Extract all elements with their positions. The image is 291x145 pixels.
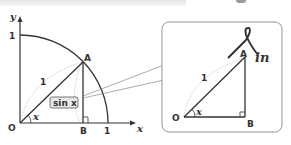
y-axis-label: y <box>9 11 17 22</box>
point-a-label: A <box>84 53 91 63</box>
segment-oa <box>20 62 83 123</box>
point-b-label: B <box>80 126 87 136</box>
diagram-stage: sin x y x 1 1 O A B 1 x in <box>0 0 291 145</box>
callout-hypotenuse-label: 1 <box>201 73 207 83</box>
callout-figure: in A B O 1 x <box>162 22 282 132</box>
callout-connector-top <box>83 65 164 96</box>
callout-box <box>162 22 282 132</box>
callout-origin-label: O <box>172 113 180 123</box>
dotted-arc-2 <box>74 62 82 123</box>
angle-arc <box>28 115 31 123</box>
sin-box-label: sin x <box>53 98 77 108</box>
left-figure: sin x y x 1 1 O A B 1 x <box>8 11 144 136</box>
callout-point-b-label: B <box>247 119 254 129</box>
angle-label: x <box>32 111 40 122</box>
y-axis-arrow <box>18 16 23 22</box>
script-label: in <box>255 50 269 65</box>
callout-angle-label: x <box>195 106 203 117</box>
origin-label: O <box>8 123 16 133</box>
callout-connector-bottom <box>83 80 164 98</box>
x-tick-label: 1 <box>104 126 110 136</box>
right-angle-mark <box>83 117 88 123</box>
hypotenuse-label: 1 <box>40 77 46 87</box>
callout-point-a-label: A <box>240 49 247 59</box>
y-tick-label: 1 <box>9 31 15 41</box>
sin-diagram: sin x y x 1 1 O A B 1 x in <box>0 0 291 145</box>
x-axis-label: x <box>136 123 144 134</box>
x-axis-arrow <box>130 121 136 126</box>
